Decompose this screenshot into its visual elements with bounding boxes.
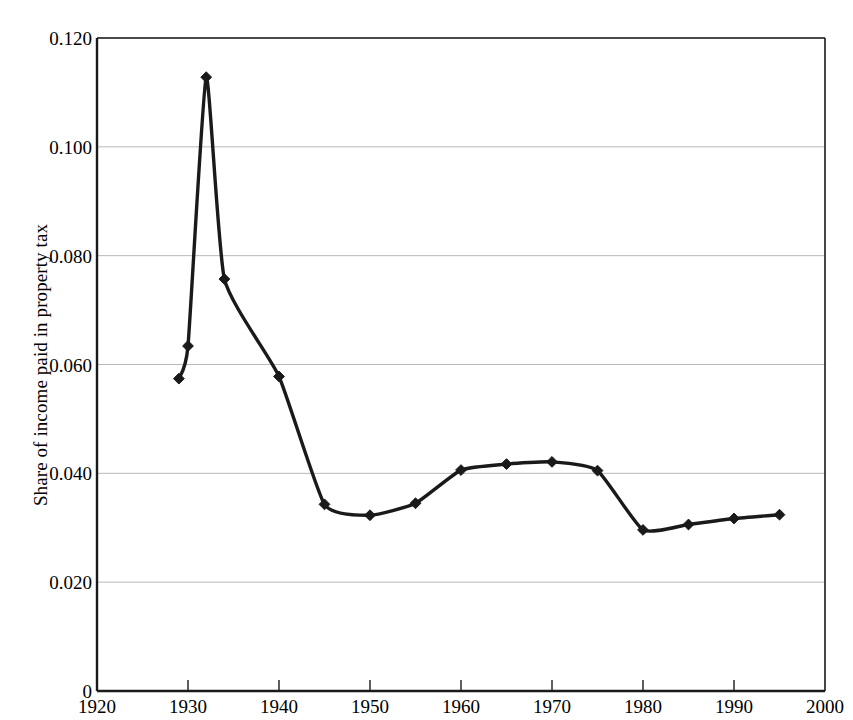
x-tick-label: 1980 xyxy=(608,697,678,717)
property-tax-share-chart: Share of income paid in property tax 00.… xyxy=(0,0,853,720)
x-axis-ticks xyxy=(188,680,734,691)
x-tick-label: 2000 xyxy=(790,697,853,717)
data-point-marker xyxy=(774,509,785,520)
x-tick-label: 1930 xyxy=(153,697,223,717)
x-tick-label: 1950 xyxy=(335,697,405,717)
data-point-marker xyxy=(683,519,694,530)
data-point-marker xyxy=(219,274,230,285)
x-tick-label: 1920 xyxy=(62,697,132,717)
data-point-marker xyxy=(729,513,740,524)
series-line xyxy=(179,77,780,531)
x-tick-label: 1940 xyxy=(244,697,314,717)
data-point-marker xyxy=(547,457,558,468)
x-tick-label: 1960 xyxy=(426,697,496,717)
data-point-marker xyxy=(183,341,194,352)
data-point-marker xyxy=(201,72,212,83)
x-tick-label: 1970 xyxy=(517,697,587,717)
plot-area xyxy=(0,0,853,720)
data-point-marker xyxy=(365,510,376,521)
data-series xyxy=(174,72,785,536)
x-tick-label: 1990 xyxy=(699,697,769,717)
x-axis-tick-labels: 192019301940195019601970198019902000 xyxy=(0,697,853,720)
gridlines xyxy=(97,38,825,582)
data-point-marker xyxy=(501,459,512,470)
